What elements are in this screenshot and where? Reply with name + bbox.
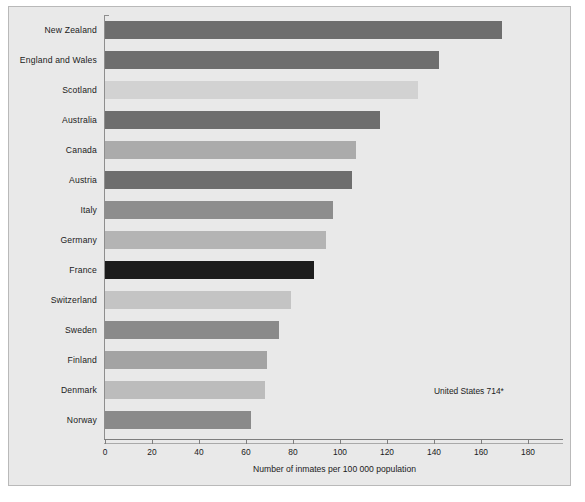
category-label: Australia (9, 105, 97, 135)
bar-track (105, 195, 566, 225)
category-label: Norway (9, 405, 97, 435)
x-tick (199, 439, 200, 444)
category-label: Denmark (9, 375, 97, 405)
category-label: Switzerland (9, 285, 97, 315)
bar (105, 201, 333, 219)
bar (105, 411, 251, 429)
x-tick-label: 60 (241, 447, 250, 457)
plot-area: New ZealandEngland and WalesScotlandAust… (9, 7, 570, 485)
bar-track (105, 285, 566, 315)
bar-track (105, 105, 566, 135)
x-tick-label: 0 (103, 447, 108, 457)
bar (105, 351, 267, 369)
category-label: Germany (9, 225, 97, 255)
bar-row: Sweden (9, 315, 570, 345)
category-label: Finland (9, 345, 97, 375)
bar-track (105, 405, 566, 435)
bar-track (105, 345, 566, 375)
x-axis-title: Number of inmates per 100 000 population (105, 464, 564, 474)
category-label: Sweden (9, 315, 97, 345)
bar-row: Scotland (9, 75, 570, 105)
bar (105, 81, 418, 99)
x-axis-line-secondary (104, 443, 563, 444)
bar-row: Australia (9, 105, 570, 135)
x-tick (105, 439, 106, 444)
bar (105, 171, 352, 189)
chart-figure: New ZealandEngland and WalesScotlandAust… (8, 6, 571, 486)
bar-row: Italy (9, 195, 570, 225)
bar (105, 231, 326, 249)
y-axis-line (104, 15, 105, 439)
x-tick (481, 439, 482, 444)
bar (105, 51, 439, 69)
x-tick-label: 20 (147, 447, 156, 457)
bar (105, 21, 502, 39)
x-tick (152, 439, 153, 444)
bar-row: Austria (9, 165, 570, 195)
x-tick (293, 439, 294, 444)
bar-track (105, 315, 566, 345)
x-tick (340, 439, 341, 444)
bar-row: Germany (9, 225, 570, 255)
bar (105, 141, 356, 159)
bar-row: Switzerland (9, 285, 570, 315)
x-tick-label: 160 (474, 447, 488, 457)
category-label: England and Wales (9, 45, 97, 75)
bar (105, 261, 314, 279)
bar (105, 291, 291, 309)
category-label: Canada (9, 135, 97, 165)
bar-track (105, 135, 566, 165)
bar-row: France (9, 255, 570, 285)
x-tick-label: 100 (333, 447, 347, 457)
bar-row: Norway (9, 405, 570, 435)
bar (105, 321, 279, 339)
bar (105, 381, 265, 399)
category-label: Scotland (9, 75, 97, 105)
bar-track (105, 75, 566, 105)
x-tick (246, 439, 247, 444)
bar-track (105, 45, 566, 75)
bar-track (105, 15, 566, 45)
x-tick-label: 120 (380, 447, 394, 457)
bar-track (105, 225, 566, 255)
bar-track (105, 165, 566, 195)
x-axis-line (104, 439, 563, 440)
bar-row: England and Wales (9, 45, 570, 75)
x-tick (434, 439, 435, 444)
y-axis-cap (104, 15, 109, 16)
x-tick-label: 140 (427, 447, 441, 457)
bar-row: Finland (9, 345, 570, 375)
bar (105, 111, 380, 129)
annotation-united-states: United States 714* (434, 386, 504, 396)
bar-rows: New ZealandEngland and WalesScotlandAust… (9, 15, 570, 435)
x-tick-label: 80 (288, 447, 297, 457)
x-tick-label: 180 (521, 447, 535, 457)
category-label: France (9, 255, 97, 285)
x-tick (387, 439, 388, 444)
category-label: Austria (9, 165, 97, 195)
category-label: New Zealand (9, 15, 97, 45)
x-tick (528, 439, 529, 444)
bar-row: Canada (9, 135, 570, 165)
category-label: Italy (9, 195, 97, 225)
bar-row: New Zealand (9, 15, 570, 45)
x-tick-label: 40 (194, 447, 203, 457)
bar-track (105, 255, 566, 285)
